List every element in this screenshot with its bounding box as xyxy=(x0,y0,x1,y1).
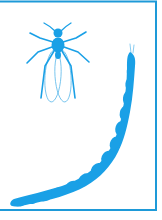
adult-insect-icon xyxy=(27,23,89,102)
larva-icon xyxy=(10,44,135,207)
insect-head xyxy=(54,29,63,38)
insect-illustration xyxy=(0,0,162,220)
insect-thorax xyxy=(52,38,65,53)
illustration-frame xyxy=(0,0,162,220)
